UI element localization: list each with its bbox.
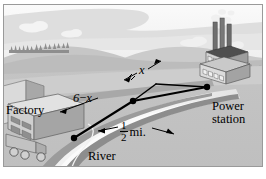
label-river: River <box>88 150 116 163</box>
truck-wheel-front <box>37 153 45 161</box>
scene-svg <box>0 0 266 179</box>
label-factory: Factory <box>6 104 44 117</box>
truck-wheel-rear <box>10 148 18 156</box>
label-unit-miles: mi. <box>130 125 146 139</box>
label-segment-x: x <box>139 64 145 77</box>
label-power-station-line2: station <box>212 113 245 126</box>
smokestack-2 <box>220 18 224 50</box>
fraction-denominator: 2 <box>120 132 128 143</box>
truck-wheel-mid <box>21 151 29 159</box>
label-x-term: x <box>86 91 92 105</box>
fraction-numerator: 1 <box>120 120 128 131</box>
illustration-figure: Factory Power station River 6−x x 1 2 mi… <box>0 0 266 179</box>
label-segment-6-minus-x: 6−x <box>73 92 92 105</box>
node-factory <box>71 135 77 141</box>
node-power-station <box>204 84 210 90</box>
label-river-width: 1 2 mi. <box>120 120 146 143</box>
label-power-station: Power station <box>212 100 245 126</box>
fraction-one-half: 1 2 <box>120 120 128 143</box>
label-power-station-line1: Power <box>212 100 245 113</box>
node-bend-point <box>130 98 136 104</box>
smokestack-1 <box>213 22 217 50</box>
